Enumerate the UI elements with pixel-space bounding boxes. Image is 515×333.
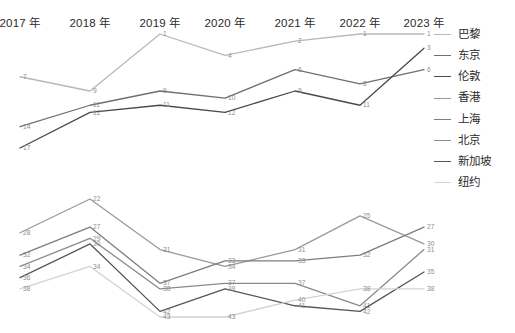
legend-item-label: 上海 <box>458 114 480 126</box>
data-point-label: 38 <box>23 285 31 292</box>
legend-line-icon <box>434 76 451 77</box>
data-point-label: 35 <box>427 268 435 275</box>
data-point-label: 11 <box>93 101 100 108</box>
data-point-label: 34 <box>23 263 31 270</box>
data-point-label: 7 <box>23 73 27 80</box>
data-point-label: 2 <box>298 37 302 44</box>
legend-item-label: 北京 <box>458 135 480 147</box>
legend-line-icon <box>434 34 451 35</box>
data-point-label: 17 <box>23 144 31 151</box>
data-point-label: 34 <box>93 263 101 270</box>
legend-item-label: 东京 <box>458 50 480 62</box>
legend-item-label: 香港 <box>458 92 480 104</box>
data-point-label: 14 <box>23 123 31 130</box>
legend-item-label: 新加坡 <box>458 156 491 168</box>
legend-line-icon <box>434 98 451 99</box>
legend-item-新加坡[interactable]: 新加坡 <box>434 151 514 172</box>
data-point-label: 9 <box>163 87 167 94</box>
legend-item-label: 纽约 <box>458 177 480 189</box>
data-point-label: 43 <box>163 313 171 320</box>
data-point-label: 33 <box>298 257 306 264</box>
data-point-label: 6 <box>298 66 302 73</box>
data-point-label: 1 <box>363 30 367 37</box>
data-point-label: 30 <box>93 240 101 247</box>
chart-root: 2017 年2018 年2019 年2020 年2021 年2022 年2023… <box>0 0 515 333</box>
data-point-label: 31 <box>427 246 435 253</box>
top-line-chart-panel: 79142111411910686171211129113 <box>0 22 430 162</box>
data-point-label: 31 <box>298 246 306 253</box>
data-point-label: 1 <box>427 30 431 37</box>
data-point-label: 3 <box>427 44 431 51</box>
legend-item-东京[interactable]: 东京 <box>434 45 514 66</box>
data-point-label: 42 <box>363 308 371 315</box>
data-point-label: 1 <box>163 30 167 37</box>
data-point-label: 36 <box>23 274 31 281</box>
legend-line-icon <box>434 55 451 56</box>
x-axis-labels: 2017 年2018 年2019 年2020 年2021 年2022 年2023… <box>0 0 430 24</box>
data-point-label: 12 <box>93 109 101 116</box>
legend: 巴黎东京伦敦香港上海北京新加坡纽约 <box>434 24 514 194</box>
legend-item-纽约[interactable]: 纽约 <box>434 172 514 193</box>
data-point-label: 8 <box>363 80 367 87</box>
data-point-label: 38 <box>363 285 371 292</box>
legend-item-上海[interactable]: 上海 <box>434 109 514 130</box>
data-point-label: 10 <box>228 94 236 101</box>
data-point-label: 25 <box>363 212 371 219</box>
legend-item-label: 巴黎 <box>458 29 480 41</box>
data-point-label: 32 <box>363 251 371 258</box>
series-line-东京 <box>20 70 424 127</box>
data-point-label: 9 <box>93 87 97 94</box>
data-point-label: 12 <box>228 109 236 116</box>
data-point-label: 38 <box>427 285 435 292</box>
data-point-label: 31 <box>163 246 171 253</box>
data-point-label: 32 <box>23 251 31 258</box>
data-point-label: 11 <box>163 101 170 108</box>
legend-item-label: 伦敦 <box>458 71 480 83</box>
bottom-line-chart-panel: 2822313431253032273733333227342938373741… <box>0 185 430 333</box>
legend-item-巴黎[interactable]: 巴黎 <box>434 24 514 45</box>
data-point-label: 33 <box>228 257 236 264</box>
data-point-label: 9 <box>298 87 302 94</box>
data-point-label: 37 <box>298 279 306 286</box>
legend-item-伦敦[interactable]: 伦敦 <box>434 66 514 87</box>
legend-line-icon <box>434 140 451 141</box>
data-point-label: 40 <box>298 296 306 303</box>
data-point-label: 43 <box>228 313 236 320</box>
data-point-label: 28 <box>23 229 31 236</box>
data-point-label: 4 <box>228 52 232 59</box>
data-point-label: 38 <box>163 285 171 292</box>
legend-item-香港[interactable]: 香港 <box>434 88 514 109</box>
data-point-label: 38 <box>228 285 236 292</box>
bottom-panel-svg: 2822313431253032273733333227342938373741… <box>0 185 430 333</box>
data-point-label: 6 <box>427 66 431 73</box>
legend-line-icon <box>434 119 451 120</box>
legend-line-icon <box>434 161 451 162</box>
data-point-label: 22 <box>93 195 101 202</box>
top-panel-svg: 79142111411910686171211129113 <box>0 22 430 162</box>
data-point-label: 27 <box>93 223 101 230</box>
legend-item-北京[interactable]: 北京 <box>434 130 514 151</box>
data-point-label: 11 <box>363 101 370 108</box>
data-point-label: 27 <box>427 223 435 230</box>
legend-line-icon <box>434 182 451 183</box>
